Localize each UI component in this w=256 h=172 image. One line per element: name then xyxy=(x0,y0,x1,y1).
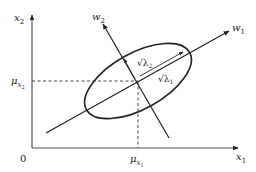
origin-label: 0 xyxy=(20,153,26,164)
w1-axis xyxy=(46,31,229,133)
y-axis-label: x2 xyxy=(14,12,24,26)
mu-x1-label: μx1 xyxy=(130,153,144,168)
pca-ellipse-diagram: x2 x1 0 μx2 μx1 w1 w2 √λ2 √λ1 xyxy=(0,0,256,172)
sqrt-lambda2-label: √λ2 xyxy=(137,58,152,69)
w1-label: w1 xyxy=(232,22,245,36)
sqrt-lambda1-label: √λ1 xyxy=(158,74,173,85)
mu-x2-label: μx2 xyxy=(11,75,25,90)
w2-label: w2 xyxy=(92,11,105,25)
sqrt-lambda2-arrow xyxy=(124,59,135,79)
x-axis-label: x1 xyxy=(236,151,246,165)
